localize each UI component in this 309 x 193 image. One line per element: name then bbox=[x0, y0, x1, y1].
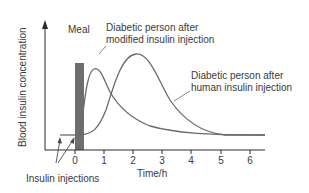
x-axis-label: Time/h bbox=[137, 168, 167, 179]
injection-arrowhead-1-icon bbox=[58, 137, 63, 144]
y-axis-arrow-icon bbox=[42, 20, 48, 29]
injection-arrow-1 bbox=[56, 140, 60, 163]
injection-arrow-2 bbox=[58, 140, 73, 163]
meal-bar bbox=[75, 63, 84, 150]
human-insulin-label-line2: human insulin injection bbox=[191, 82, 292, 93]
x-ticks bbox=[75, 150, 250, 154]
y-axis-label: Blood insulin concentration bbox=[17, 27, 28, 147]
x-tick-6: 6 bbox=[247, 155, 253, 166]
human-insulin-curve bbox=[80, 54, 265, 135]
x-tick-0: 0 bbox=[72, 155, 78, 166]
x-tick-1: 1 bbox=[101, 155, 107, 166]
insulin-injections-label: Insulin injections bbox=[26, 173, 99, 184]
modified-insulin-label-line2: modified insulin injection bbox=[106, 34, 214, 45]
human-insulin-label-line1: Diabetic person after bbox=[191, 70, 283, 81]
human-leader-line bbox=[174, 91, 190, 101]
x-tick-4: 4 bbox=[188, 155, 194, 166]
modified-insulin-label-line1: Diabetic person after bbox=[106, 22, 198, 33]
x-tick-5: 5 bbox=[218, 155, 224, 166]
meal-label: Meal bbox=[68, 24, 90, 35]
x-tick-2: 2 bbox=[130, 155, 136, 166]
modified-leader-line bbox=[99, 46, 106, 54]
x-tick-3: 3 bbox=[159, 155, 165, 166]
